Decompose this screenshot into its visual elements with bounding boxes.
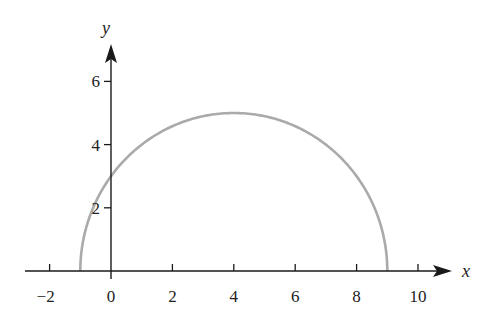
y-axis-label: y (100, 18, 110, 38)
x-tick-label: −2 (37, 287, 55, 306)
x-tick-label: 10 (410, 287, 427, 306)
x-tick-label: 4 (230, 287, 239, 306)
x-tick-label: 6 (291, 287, 300, 306)
curve-path (80, 113, 387, 271)
semicircle-curve (80, 113, 387, 271)
y-tick-label: 4 (92, 136, 101, 155)
x-tick-label: 8 (352, 287, 361, 306)
ticks (50, 81, 418, 271)
x-tick-label: 0 (107, 287, 116, 306)
x-axis-label: x (461, 261, 470, 281)
y-tick-label: 6 (92, 72, 101, 91)
y-tick-label: 2 (92, 199, 101, 218)
axes (25, 44, 452, 279)
chart: −20246810246 x y (0, 0, 484, 323)
x-tick-label: 2 (168, 287, 177, 306)
